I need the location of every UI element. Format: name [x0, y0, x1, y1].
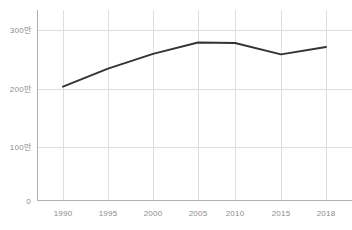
y-tick-label-100man: 100만	[10, 143, 32, 152]
horizontal-gridlines	[38, 31, 352, 148]
x-tick-label-1990: 1990	[54, 209, 73, 218]
line-chart: 300만 200만 100만 0 1990 1995 2000 2005 201…	[0, 0, 352, 230]
y-tick-label-300man: 300만	[10, 26, 32, 35]
y-tick-label-0: 0	[26, 197, 31, 206]
x-tick-label-2018: 2018	[317, 209, 336, 218]
x-tick-label-2010: 2010	[226, 209, 245, 218]
x-tick-label-2015: 2015	[272, 209, 291, 218]
series-line-path	[63, 42, 326, 86]
x-tick-label-2005: 2005	[189, 209, 208, 218]
x-tick-label-1995: 1995	[99, 209, 118, 218]
vertical-gridlines	[64, 10, 327, 201]
y-tick-label-200man: 200만	[10, 85, 32, 94]
y-axis-tick-labels: 300만 200만 100만 0	[10, 26, 32, 206]
chart-canvas: 300만 200만 100만 0 1990 1995 2000 2005 201…	[0, 0, 352, 230]
x-tick-label-2000: 2000	[144, 209, 163, 218]
axes	[38, 10, 352, 201]
data-series-group	[63, 42, 326, 86]
x-axis-tick-labels: 1990 1995 2000 2005 2010 2015 2018	[54, 209, 336, 218]
